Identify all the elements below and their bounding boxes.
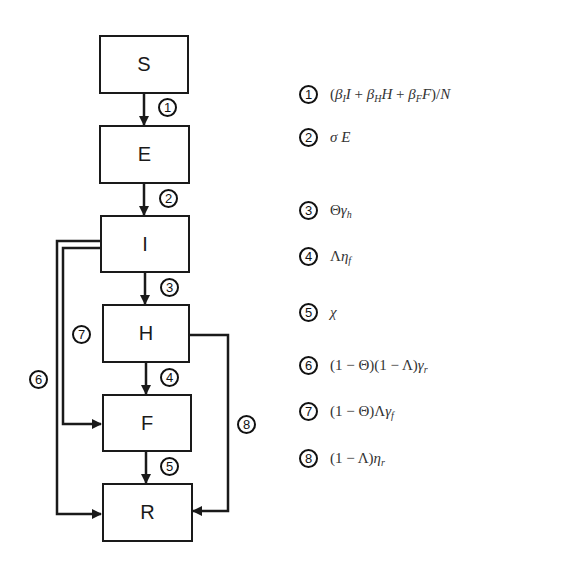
compartment-h: H bbox=[102, 304, 190, 363]
legend-item-3: 3 Θγh bbox=[299, 201, 352, 220]
transition-marker-3: 3 bbox=[160, 278, 179, 297]
legend-expression-5: χ bbox=[330, 304, 337, 321]
compartment-label: S bbox=[137, 53, 150, 76]
transition-marker-5: 5 bbox=[160, 457, 179, 476]
compartment-label: E bbox=[138, 143, 151, 166]
compartment-r: R bbox=[102, 483, 193, 542]
legend-number-5: 5 bbox=[299, 303, 318, 322]
legend-number-2: 2 bbox=[299, 128, 318, 147]
legend-item-1: 1 (βII + βHH + βFF)/N bbox=[299, 85, 450, 104]
legend-expression-3: Θγh bbox=[330, 202, 352, 220]
legend-number-3: 3 bbox=[299, 201, 318, 220]
legend-number-8: 8 bbox=[299, 449, 318, 468]
legend-expression-2: σ E bbox=[330, 129, 350, 146]
legend-item-6: 6 (1 − Θ)(1 − Λ)γr bbox=[299, 356, 428, 375]
legend-item-8: 8 (1 − Λ)ηr bbox=[299, 449, 385, 468]
legend-number-1: 1 bbox=[299, 85, 318, 104]
compartment-label: I bbox=[142, 233, 148, 256]
compartment-i: I bbox=[100, 215, 190, 273]
legend-number-7: 7 bbox=[299, 402, 318, 421]
transition-marker-1: 1 bbox=[158, 98, 177, 117]
legend-expression-6: (1 − Θ)(1 − Λ)γr bbox=[330, 357, 428, 375]
compartment-e: E bbox=[99, 125, 190, 184]
legend-expression-4: Ληf bbox=[330, 248, 351, 266]
arrow-h-to-r bbox=[189, 335, 228, 511]
legend-expression-7: (1 − Θ)Λγf bbox=[330, 403, 394, 421]
compartment-label: R bbox=[140, 501, 154, 524]
legend-item-2: 2 σ E bbox=[299, 128, 350, 147]
transition-marker-8: 8 bbox=[237, 415, 256, 434]
legend-item-4: 4 Ληf bbox=[299, 247, 351, 266]
legend-item-5: 5 χ bbox=[299, 303, 337, 322]
transition-marker-4: 4 bbox=[160, 368, 179, 387]
transition-marker-7: 7 bbox=[72, 325, 91, 344]
transition-marker-6: 6 bbox=[29, 370, 48, 389]
legend-number-6: 6 bbox=[299, 356, 318, 375]
legend-item-7: 7 (1 − Θ)Λγf bbox=[299, 402, 394, 421]
transition-marker-2: 2 bbox=[159, 189, 178, 208]
compartment-s: S bbox=[99, 35, 189, 94]
legend-number-4: 4 bbox=[299, 247, 318, 266]
legend-expression-8: (1 − Λ)ηr bbox=[330, 450, 385, 468]
compartment-label: F bbox=[141, 412, 153, 435]
compartment-f: F bbox=[102, 394, 192, 452]
legend-expression-1: (βII + βHH + βFF)/N bbox=[330, 86, 450, 104]
compartment-label: H bbox=[139, 322, 153, 345]
flow-arrows bbox=[0, 0, 561, 580]
